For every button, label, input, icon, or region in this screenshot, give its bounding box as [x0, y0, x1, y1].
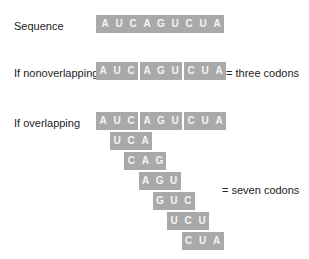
base-letter: C — [184, 62, 198, 80]
base-letter: C — [181, 212, 195, 230]
codon-box: CAG — [124, 152, 166, 170]
codon-box: UCU — [167, 212, 209, 230]
base-letter: U — [110, 62, 124, 80]
codon-box: AGU — [140, 62, 182, 80]
base-letter: A — [98, 15, 112, 33]
base-letter: U — [168, 112, 182, 130]
base-letter: U — [167, 192, 181, 210]
base-letter: G — [154, 62, 168, 80]
base-letter: G — [153, 192, 167, 210]
base-letter: U — [198, 62, 212, 80]
base-letter: C — [124, 132, 138, 150]
codon-box: AUC — [96, 62, 138, 80]
base-letter: A — [138, 132, 152, 150]
base-letter: C — [182, 232, 196, 250]
base-letter: U — [112, 15, 126, 33]
codon-box: AGU — [139, 172, 181, 190]
codon-box: GUC — [153, 192, 195, 210]
codon-box: CUA — [184, 62, 226, 80]
base-letter: A — [210, 15, 224, 33]
three-codons-result: = three codons — [226, 66, 299, 80]
base-letter: U — [196, 232, 210, 250]
base-letter: A — [212, 62, 226, 80]
overlapping-top-codons: AUCAGUCUA — [96, 112, 226, 130]
sequence-label: Sequence — [14, 19, 64, 33]
base-letter: C — [184, 112, 198, 130]
codon-box: UCA — [110, 132, 152, 150]
base-letter: U — [195, 212, 209, 230]
base-letter: G — [154, 15, 168, 33]
base-letter: A — [96, 62, 110, 80]
base-letter: U — [198, 112, 212, 130]
base-letter: C — [181, 192, 195, 210]
codon-box: CUA — [182, 232, 224, 250]
nonoverlapping-codons: AUCAGUCUA — [96, 62, 226, 80]
base-letter: U — [168, 15, 182, 33]
seven-codons-result: = seven codons — [222, 183, 299, 197]
base-letter: A — [140, 15, 154, 33]
base-letter: A — [212, 112, 226, 130]
base-letter: A — [210, 232, 224, 250]
base-letter: U — [167, 172, 181, 190]
base-letter: G — [152, 152, 166, 170]
base-letter: G — [154, 112, 168, 130]
codon-box: AGU — [140, 112, 182, 130]
base-letter: U — [167, 212, 181, 230]
base-letter: G — [153, 172, 167, 190]
nonoverlapping-label: If nonoverlapping — [14, 66, 98, 80]
base-letter: C — [124, 112, 138, 130]
base-letter: C — [124, 152, 138, 170]
base-letter: A — [140, 62, 154, 80]
base-letter: C — [182, 15, 196, 33]
base-letter: U — [168, 62, 182, 80]
codon-box: AUC — [96, 112, 138, 130]
base-letter: A — [96, 112, 110, 130]
sequence-bar: AUCAGUCUA — [96, 15, 224, 33]
base-letter: A — [139, 172, 153, 190]
overlapping-label: If overlapping — [14, 116, 80, 130]
base-letter: U — [110, 112, 124, 130]
base-letter: C — [126, 15, 140, 33]
base-letter: U — [110, 132, 124, 150]
base-letter: U — [196, 15, 210, 33]
base-letter: C — [124, 62, 138, 80]
base-letter: A — [140, 112, 154, 130]
codon-box: CUA — [184, 112, 226, 130]
base-letter: A — [138, 152, 152, 170]
